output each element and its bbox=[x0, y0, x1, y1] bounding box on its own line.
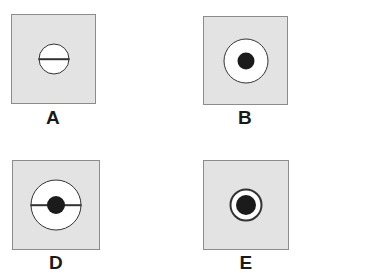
diagram-figure: ABDE bbox=[0, 0, 387, 280]
panel-label-e: E bbox=[239, 253, 252, 272]
swatch-square-a bbox=[11, 14, 96, 104]
panel-label-d: D bbox=[49, 253, 63, 272]
swatch-square-d bbox=[12, 160, 100, 250]
swatch-square-b bbox=[203, 16, 288, 105]
center-dot-b bbox=[237, 52, 254, 69]
center-dot-e bbox=[236, 195, 256, 215]
panel-label-b: B bbox=[238, 108, 252, 127]
panel-label-a: A bbox=[46, 108, 60, 127]
swatch-square-e bbox=[203, 160, 289, 250]
diameter-line-a bbox=[38, 58, 69, 60]
center-dot-d bbox=[47, 196, 65, 214]
